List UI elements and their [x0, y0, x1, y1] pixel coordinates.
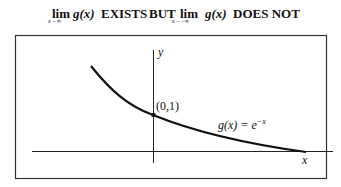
- function-label-base: g(x) = e: [218, 118, 257, 132]
- graph: [0, 0, 341, 187]
- point-label: (0,1): [156, 99, 179, 114]
- function-label-exponent: −x: [257, 117, 266, 126]
- x-axis-label: x: [302, 153, 307, 168]
- y-axis-label: y: [158, 45, 163, 60]
- function-label: g(x) = e−x: [218, 117, 266, 133]
- exponential-curve: [91, 66, 306, 152]
